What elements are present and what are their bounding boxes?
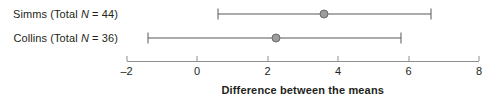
x-axis-tick <box>408 56 409 61</box>
confidence-interval-cap-high <box>401 33 402 44</box>
x-axis-tick <box>267 56 268 61</box>
confidence-interval-cap-high <box>431 9 432 20</box>
x-axis-tick-label: 2 <box>264 65 270 77</box>
x-axis-tick-label: 6 <box>405 65 411 77</box>
x-axis-line <box>127 61 480 62</box>
confidence-interval-cap-low <box>147 33 148 44</box>
x-axis-tick-label: 0 <box>194 65 200 77</box>
x-axis-tick-label: 8 <box>476 65 482 77</box>
x-axis-tick-label: –2 <box>120 65 132 77</box>
x-axis-tick <box>197 56 198 61</box>
x-axis-title: Difference between the means <box>221 84 384 96</box>
x-axis-tick <box>479 56 480 61</box>
point-estimate-marker <box>272 34 281 43</box>
x-axis-tick <box>126 56 127 61</box>
point-estimate-marker <box>319 10 328 19</box>
forest-plot-figure: Simms (Total N = 44) Collins (Total N = … <box>0 0 504 102</box>
confidence-interval-cap-low <box>218 9 219 20</box>
x-axis-tick-label: 4 <box>335 65 341 77</box>
x-axis-tick <box>338 56 339 61</box>
